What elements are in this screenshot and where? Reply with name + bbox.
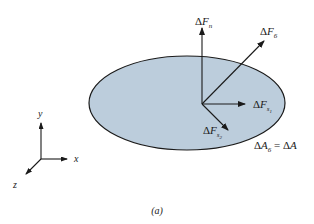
normal-force-label: ΔFn bbox=[195, 15, 213, 30]
force-on-area-diagram: ΔFn ΔF6 ΔFs1 ΔFs2 ΔA6 = ΔA y x z (a) bbox=[0, 0, 314, 224]
z-axis-arrow bbox=[26, 159, 41, 174]
coordinate-axes bbox=[26, 123, 67, 174]
y-axis-label: y bbox=[37, 108, 43, 119]
z-axis-label: z bbox=[12, 179, 17, 190]
figure-caption: (a) bbox=[151, 205, 163, 217]
x-axis-label: x bbox=[73, 153, 79, 164]
resultant-force-label: ΔF6 bbox=[260, 25, 278, 40]
area-label: ΔA6 = ΔA bbox=[254, 139, 297, 154]
